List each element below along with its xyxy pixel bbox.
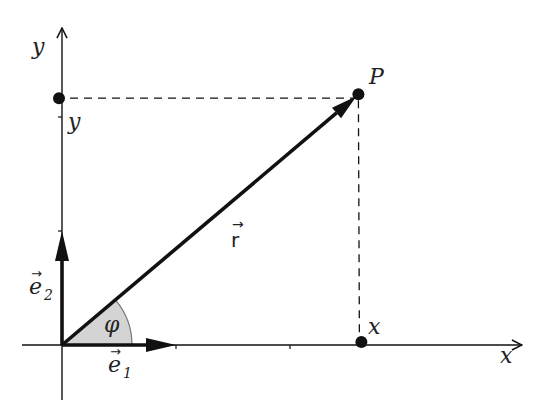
point-y-projection [53,92,65,104]
vector-e2-arrow-accent: → [31,266,42,281]
vector-e2-subscript: 2 [43,287,53,303]
vector-r-arrow-accent: → [232,216,244,232]
unit-vector-e1-arrowhead [146,338,176,352]
unit-vector-e2-arrowhead [55,231,69,261]
vector-r-label: r → [231,216,244,252]
point-x-projection [355,336,367,348]
y-axis-label: y [31,34,45,59]
vector-e1-arrow-accent: → [110,344,121,359]
point-P-label: P [368,64,385,89]
x-projection-label: x [368,314,381,339]
vector-e1-subscript: 1 [123,365,132,381]
diagram-canvas: y x P y x r → e 1 → e 2 → φ [0,0,543,419]
y-projection-label: y [67,109,81,134]
vector-e2-label: e 2 → [29,266,53,303]
point-P [352,88,364,100]
x-axis-label: x [500,343,513,368]
vector-e1-label: e 1 → [108,344,132,381]
angle-phi-label: φ [104,312,120,337]
position-vector-r [62,113,337,345]
projection-line-vertical [358,100,359,337]
